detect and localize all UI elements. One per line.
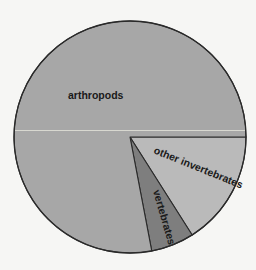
pie-slices xyxy=(14,21,246,253)
label-arthropods: arthropods xyxy=(68,89,124,101)
pie-chart: arthropods other invertebrates vertebrat… xyxy=(0,0,256,270)
